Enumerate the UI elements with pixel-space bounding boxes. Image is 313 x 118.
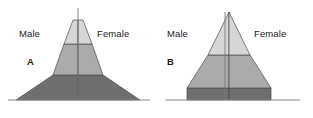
pyramid-panel-a: Male Female A bbox=[0, 0, 156, 118]
pyramid-b-band-middle-female bbox=[229, 55, 271, 88]
pyramid-a-panel-label: A bbox=[27, 56, 34, 67]
pyramid-b-band-younger-male bbox=[187, 88, 229, 100]
pyramid-a-band-older-female bbox=[78, 20, 92, 44]
pyramid-a-band-middle-female bbox=[78, 44, 103, 75]
pyramid-a-band-older-male bbox=[64, 20, 78, 44]
pyramid-panel-b: Male Female B bbox=[157, 0, 313, 118]
pyramid-a-graphic bbox=[0, 0, 156, 118]
pyramid-b-panel-label: B bbox=[167, 56, 174, 67]
pyramid-b-band-middle-male bbox=[187, 55, 229, 88]
pyramid-b-band-older-female bbox=[229, 12, 250, 55]
pyramid-b-band-younger-female bbox=[229, 88, 271, 100]
pyramid-b-band-older-male bbox=[208, 12, 229, 55]
pyramid-a-band-younger-female bbox=[78, 75, 140, 100]
pyramid-a-female-label: Female bbox=[97, 28, 129, 39]
pyramid-a-band-middle-male bbox=[53, 44, 78, 75]
pyramid-b-graphic bbox=[157, 0, 313, 118]
pyramid-a-male-label: Male bbox=[19, 28, 40, 39]
pyramid-b-female-label: Female bbox=[254, 28, 286, 39]
pyramid-a-band-younger-male bbox=[16, 75, 78, 100]
population-pyramid-figure: Male Female A Male Female B bbox=[0, 0, 313, 118]
pyramid-b-male-label: Male bbox=[167, 28, 188, 39]
